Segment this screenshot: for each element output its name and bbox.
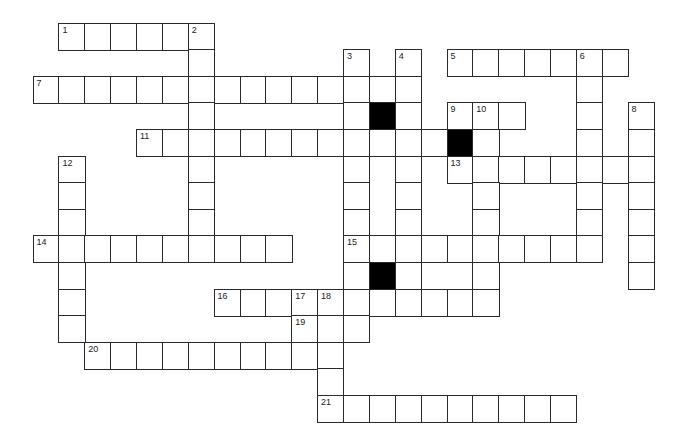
crossword-cell[interactable] xyxy=(447,395,474,423)
crossword-cell[interactable] xyxy=(240,289,267,317)
crossword-cell[interactable] xyxy=(317,76,344,104)
crossword-cell[interactable] xyxy=(395,235,422,263)
crossword-cell[interactable]: 21 xyxy=(317,395,344,423)
crossword-cell[interactable] xyxy=(343,209,370,237)
crossword-cell[interactable] xyxy=(188,209,215,237)
crossword-cell[interactable] xyxy=(136,23,163,51)
crossword-cell[interactable] xyxy=(240,76,267,104)
crossword-cell[interactable] xyxy=(550,49,577,77)
crossword-cell[interactable] xyxy=(447,289,474,317)
crossword-cell[interactable] xyxy=(58,289,85,317)
crossword-cell[interactable]: 20 xyxy=(84,342,111,370)
crossword-cell[interactable] xyxy=(447,235,474,263)
crossword-cell[interactable]: 9 xyxy=(447,102,474,130)
crossword-cell[interactable] xyxy=(162,235,189,263)
crossword-cell[interactable] xyxy=(524,395,551,423)
crossword-cell[interactable] xyxy=(498,156,525,184)
crossword-cell[interactable] xyxy=(188,235,215,263)
crossword-cell[interactable] xyxy=(576,76,603,104)
crossword-cell[interactable] xyxy=(395,156,422,184)
crossword-cell[interactable] xyxy=(343,395,370,423)
crossword-cell[interactable]: 12 xyxy=(58,156,85,184)
crossword-cell[interactable] xyxy=(628,129,655,157)
crossword-cell[interactable] xyxy=(265,289,292,317)
crossword-cell[interactable]: 11 xyxy=(136,129,163,157)
crossword-cell[interactable]: 7 xyxy=(33,76,60,104)
crossword-cell[interactable] xyxy=(162,76,189,104)
crossword-cell[interactable] xyxy=(472,235,499,263)
crossword-cell[interactable] xyxy=(84,23,111,51)
crossword-cell[interactable] xyxy=(58,182,85,210)
crossword-cell[interactable] xyxy=(472,209,499,237)
crossword-cell[interactable]: 15 xyxy=(343,235,370,263)
crossword-cell[interactable] xyxy=(58,76,85,104)
crossword-cell[interactable] xyxy=(110,235,137,263)
crossword-cell[interactable] xyxy=(576,129,603,157)
crossword-cell[interactable] xyxy=(421,289,448,317)
crossword-cell[interactable] xyxy=(395,395,422,423)
crossword-cell[interactable] xyxy=(472,49,499,77)
crossword-cell[interactable] xyxy=(84,76,111,104)
crossword-cell[interactable] xyxy=(58,262,85,290)
crossword-cell[interactable]: 6 xyxy=(576,49,603,77)
crossword-cell[interactable] xyxy=(395,289,422,317)
crossword-cell[interactable]: 17 xyxy=(291,289,318,317)
crossword-cell[interactable] xyxy=(369,129,396,157)
crossword-cell[interactable] xyxy=(369,289,396,317)
crossword-cell[interactable] xyxy=(240,342,267,370)
crossword-cell[interactable] xyxy=(472,182,499,210)
crossword-cell[interactable] xyxy=(421,129,448,157)
crossword-cell[interactable] xyxy=(628,156,655,184)
crossword-cell[interactable] xyxy=(343,129,370,157)
crossword-cell[interactable] xyxy=(343,76,370,104)
crossword-cell[interactable] xyxy=(576,102,603,130)
crossword-cell[interactable] xyxy=(58,315,85,343)
crossword-cell[interactable] xyxy=(550,395,577,423)
crossword-cell[interactable] xyxy=(524,49,551,77)
crossword-cell[interactable] xyxy=(395,209,422,237)
crossword-cell[interactable] xyxy=(188,49,215,77)
crossword-cell[interactable]: 14 xyxy=(33,235,60,263)
crossword-cell[interactable] xyxy=(498,395,525,423)
crossword-cell[interactable] xyxy=(498,102,525,130)
crossword-cell[interactable] xyxy=(343,182,370,210)
crossword-cell[interactable]: 1 xyxy=(58,23,85,51)
crossword-cell[interactable]: 13 xyxy=(447,156,474,184)
crossword-cell[interactable] xyxy=(498,235,525,263)
crossword-cell[interactable] xyxy=(472,156,499,184)
crossword-cell[interactable] xyxy=(343,315,370,343)
crossword-cell[interactable] xyxy=(240,235,267,263)
crossword-cell[interactable] xyxy=(317,315,344,343)
crossword-cell[interactable] xyxy=(602,156,629,184)
crossword-cell[interactable] xyxy=(110,23,137,51)
crossword-cell[interactable] xyxy=(84,235,111,263)
crossword-cell[interactable]: 5 xyxy=(447,49,474,77)
crossword-cell[interactable] xyxy=(136,76,163,104)
crossword-cell[interactable] xyxy=(188,76,215,104)
crossword-cell[interactable] xyxy=(188,102,215,130)
crossword-cell[interactable]: 4 xyxy=(395,49,422,77)
crossword-cell[interactable] xyxy=(188,156,215,184)
crossword-cell[interactable]: 10 xyxy=(472,102,499,130)
crossword-cell[interactable] xyxy=(576,235,603,263)
crossword-cell[interactable] xyxy=(343,262,370,290)
crossword-cell[interactable] xyxy=(58,235,85,263)
crossword-cell[interactable]: 18 xyxy=(317,289,344,317)
crossword-cell[interactable] xyxy=(524,235,551,263)
crossword-cell[interactable] xyxy=(214,342,241,370)
crossword-cell[interactable] xyxy=(343,102,370,130)
crossword-cell[interactable] xyxy=(188,182,215,210)
crossword-cell[interactable] xyxy=(395,262,422,290)
crossword-cell[interactable] xyxy=(317,129,344,157)
crossword-cell[interactable] xyxy=(395,129,422,157)
crossword-cell[interactable] xyxy=(136,342,163,370)
crossword-cell[interactable] xyxy=(576,182,603,210)
crossword-cell[interactable] xyxy=(628,235,655,263)
crossword-cell[interactable] xyxy=(472,262,499,290)
crossword-cell[interactable] xyxy=(214,235,241,263)
crossword-cell[interactable] xyxy=(162,342,189,370)
crossword-cell[interactable] xyxy=(317,368,344,396)
crossword-cell[interactable] xyxy=(291,76,318,104)
crossword-cell[interactable]: 19 xyxy=(291,315,318,343)
crossword-cell[interactable] xyxy=(472,395,499,423)
